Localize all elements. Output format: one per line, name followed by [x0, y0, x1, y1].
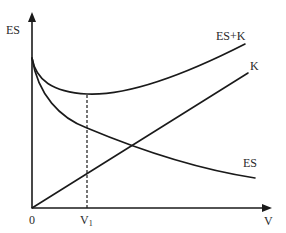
x-axis	[32, 204, 272, 212]
es-plus-k-curve	[32, 44, 245, 94]
cost-diagram: ES V 0 V1 ES+K K ES	[0, 0, 286, 233]
k-line	[32, 73, 248, 208]
es-curve	[32, 58, 255, 178]
x-axis-label: V	[264, 214, 273, 228]
origin-label: 0	[29, 213, 35, 227]
y-axis	[28, 12, 36, 208]
v1-label: V1	[80, 213, 93, 228]
es-label: ES	[243, 156, 257, 170]
diagram-canvas: ES V 0 V1 ES+K K ES	[0, 0, 286, 233]
v1-label-sub: 1	[89, 219, 93, 228]
x-axis-arrow-icon	[262, 204, 272, 212]
es-plus-k-label: ES+K	[216, 29, 246, 43]
y-axis-arrow-icon	[28, 12, 36, 22]
k-label: K	[250, 59, 259, 73]
v1-label-main: V	[80, 213, 89, 227]
y-axis-label: ES	[6, 23, 20, 37]
